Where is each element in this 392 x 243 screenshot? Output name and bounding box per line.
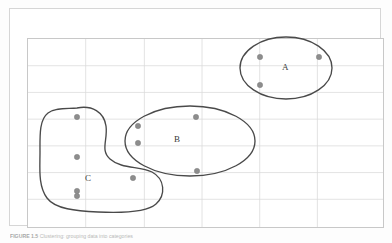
cluster-label-b: B	[174, 135, 180, 144]
cluster-label-c: C	[85, 174, 91, 183]
grid-lines	[28, 39, 383, 227]
figure-page: A B C FIGURE 1.5 Clustering: grouping da…	[0, 0, 392, 243]
cluster-label-a: A	[282, 63, 289, 72]
caption-number: FIGURE 1.5	[10, 233, 38, 239]
figure-caption: FIGURE 1.5 Clustering: grouping data int…	[10, 233, 340, 239]
plot-area	[27, 38, 384, 228]
caption-text: Clustering: grouping data into categorie…	[40, 233, 133, 239]
figure-frame	[9, 8, 381, 226]
